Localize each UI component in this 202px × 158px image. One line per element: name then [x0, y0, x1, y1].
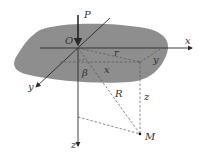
point-m	[139, 133, 142, 136]
half-space-surface	[14, 24, 168, 83]
label-z-component: z	[143, 91, 150, 102]
label-beta: β	[81, 67, 88, 78]
depth-projection-line	[78, 117, 140, 134]
boussinesq-diagram: P O x y z r x y z R β M	[0, 0, 202, 158]
label-R: R	[114, 88, 123, 99]
label-o: O	[65, 35, 73, 46]
label-x-axis: x	[185, 35, 191, 46]
label-m: M	[144, 131, 156, 142]
label-x-component: x	[104, 64, 110, 75]
label-p: P	[83, 9, 91, 20]
label-y-component: y	[152, 54, 159, 65]
label-y-axis: y	[27, 81, 34, 92]
label-z-axis: z	[70, 139, 77, 150]
